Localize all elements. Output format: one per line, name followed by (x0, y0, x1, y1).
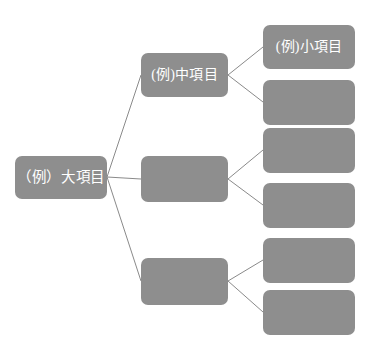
connector-line-root-to-mid1 (107, 75, 141, 177)
node-box-leaf3[interactable] (263, 128, 355, 173)
connector-line-root-to-mid2 (107, 177, 141, 179)
node-label-root: （例）大項目 (17, 170, 105, 186)
node-label-mid1: (例)中項目 (151, 67, 218, 82)
node-box-mid1[interactable]: (例)中項目 (141, 53, 228, 97)
node-box-leaf5[interactable] (263, 238, 355, 283)
node-box-mid2[interactable] (141, 156, 228, 202)
connector-line-mid3-to-leaf5 (228, 260, 263, 281)
connector-line-mid2-to-leaf4 (228, 179, 263, 205)
node-box-leaf4[interactable] (263, 183, 355, 228)
tree-diagram: （例）大項目(例)中項目(例)小項目 (0, 0, 369, 353)
connector-line-mid2-to-leaf3 (228, 150, 263, 179)
node-box-leaf1[interactable]: (例)小項目 (263, 25, 355, 69)
node-box-mid3[interactable] (141, 258, 228, 305)
node-label-leaf1: (例)小項目 (276, 39, 343, 54)
node-box-leaf6[interactable] (263, 290, 355, 335)
node-box-leaf2[interactable] (263, 80, 355, 125)
connector-line-mid1-to-leaf1 (228, 47, 263, 75)
connector-line-mid1-to-leaf2 (228, 75, 263, 102)
connector-line-root-to-mid3 (107, 177, 141, 281)
node-box-root[interactable]: （例）大項目 (15, 156, 107, 199)
connector-line-mid3-to-leaf6 (228, 281, 263, 312)
